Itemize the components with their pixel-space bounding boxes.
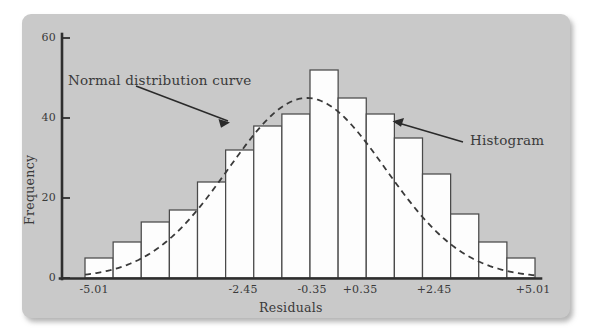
y-axis-title: Frequency bbox=[22, 155, 37, 225]
table-row bbox=[198, 182, 226, 278]
x-tick-label-neg-2-45: -2.45 bbox=[215, 283, 271, 296]
y-tick-label-60: 60 bbox=[34, 31, 56, 44]
x-tick-label-neg-5-01: -5.01 bbox=[66, 283, 122, 296]
x-tick-label-pos-2-45: +2.45 bbox=[406, 283, 462, 296]
annotation-histogram: Histogram bbox=[470, 132, 544, 148]
histogram-bars bbox=[85, 70, 535, 278]
x-tick-label-pos-0-35: +0.35 bbox=[335, 283, 385, 296]
table-row bbox=[394, 138, 422, 278]
x-axis-title: Residuals bbox=[259, 300, 323, 315]
table-row bbox=[310, 70, 338, 278]
table-row bbox=[282, 114, 310, 278]
table-row bbox=[169, 210, 197, 278]
y-tick-label-40: 40 bbox=[34, 111, 56, 124]
y-tick-label-0: 0 bbox=[34, 271, 56, 284]
table-row bbox=[451, 214, 479, 278]
table-row bbox=[366, 114, 394, 278]
x-tick-label-neg-0-35: -0.35 bbox=[287, 283, 337, 296]
table-row bbox=[423, 174, 451, 278]
table-row bbox=[226, 150, 254, 278]
table-row bbox=[479, 242, 507, 278]
annotation-normal-distribution-curve: Normal distribution curve bbox=[68, 72, 251, 88]
x-tick-label-pos-5-01: +5.01 bbox=[505, 283, 561, 296]
y-tick-label-20: 20 bbox=[34, 191, 56, 204]
normal-curve-annotation-arrow bbox=[136, 86, 230, 128]
table-row bbox=[254, 126, 282, 278]
residuals-histogram-figure: 60 40 20 0 -5.01 -2.45 -0.35 +0.35 +2.45… bbox=[0, 0, 591, 335]
